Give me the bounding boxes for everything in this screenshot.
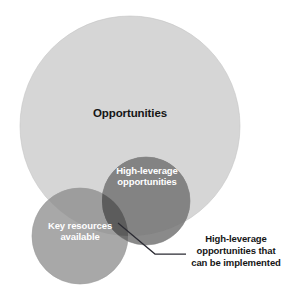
- label-opportunities: Opportunities: [60, 107, 200, 120]
- callout-label-implementable-opportunities: High-leverage opportunities that can be …: [186, 233, 286, 269]
- label-high-leverage-opportunities: High-leverage opportunities: [101, 166, 193, 187]
- venn-diagram-figure: Opportunities High-leverage opportunitie…: [0, 0, 289, 300]
- label-key-resources-available: Key resources available: [32, 221, 128, 242]
